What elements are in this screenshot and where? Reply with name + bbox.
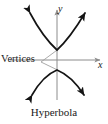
vertices-annotation-label: Vertices xyxy=(1,54,35,65)
hyperbola-figure: y x Vertices Hyperbola xyxy=(0,0,108,124)
x-axis-label: x xyxy=(98,60,102,70)
leader-line-lower-vertex xyxy=(41,62,57,70)
figure-caption: Hyperbola xyxy=(0,107,108,118)
y-axis-label: y xyxy=(58,4,62,14)
hyperbola-lower-branch xyxy=(32,70,84,95)
